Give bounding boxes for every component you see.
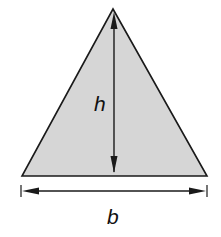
height-label: h: [94, 93, 106, 114]
base-label: b: [107, 206, 119, 227]
base-arrow-right-head: [189, 188, 206, 195]
base-arrow-left-head: [22, 188, 39, 195]
triangle-diagram: [0, 0, 221, 237]
